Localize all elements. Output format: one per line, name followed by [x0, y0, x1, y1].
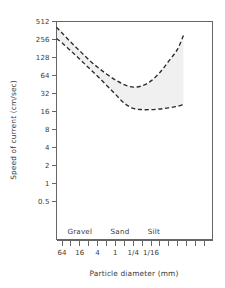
y-tick-label-8: 8: [45, 126, 50, 134]
y-tick-label-2: 2: [45, 162, 50, 170]
y-tick-label-128: 128: [36, 54, 50, 62]
x-tick-label-4: 1/4: [127, 249, 139, 257]
x-axis-tick-labels: 6416411/41/16: [57, 249, 159, 257]
region-label-sand: Sand: [111, 227, 130, 236]
hjulstrom-diagram-figure: 51225612864321684210.5 6416411/41/16 Gra…: [0, 0, 225, 288]
y-tick-label-256: 256: [36, 36, 50, 44]
x-axis-title: Particle diameter (mm): [90, 269, 179, 278]
y-tick-label-16: 16: [40, 108, 50, 116]
region-labels-group: GravelSandSilt: [67, 227, 160, 236]
x-tick-label-5: 1/16: [143, 249, 160, 257]
y-tick-label-32: 32: [40, 90, 49, 98]
y-tick-label-4: 4: [45, 144, 50, 152]
x-tick-label-3: 1: [113, 249, 118, 257]
region-label-silt: Silt: [148, 227, 160, 236]
region-label-gravel: Gravel: [67, 227, 92, 236]
chart-canvas: 51225612864321684210.5 6416411/41/16 Gra…: [0, 0, 225, 288]
x-tick-label-1: 16: [75, 249, 85, 257]
shaded-band-region: [57, 27, 184, 109]
y-tick-label-1: 1: [45, 180, 50, 188]
y-axis-tick-labels: 51225612864321684210.5: [36, 18, 50, 206]
y-tick-label-0.5: 0.5: [38, 198, 49, 206]
x-axis-tick-group: [57, 240, 213, 246]
y-axis-tick-group: [52, 22, 57, 202]
y-tick-label-64: 64: [40, 72, 50, 80]
x-tick-label-0: 64: [57, 249, 67, 257]
x-tick-label-2: 4: [95, 249, 100, 257]
y-tick-label-512: 512: [36, 18, 50, 26]
y-axis-title: Speed of current (cm/sec): [9, 80, 18, 180]
